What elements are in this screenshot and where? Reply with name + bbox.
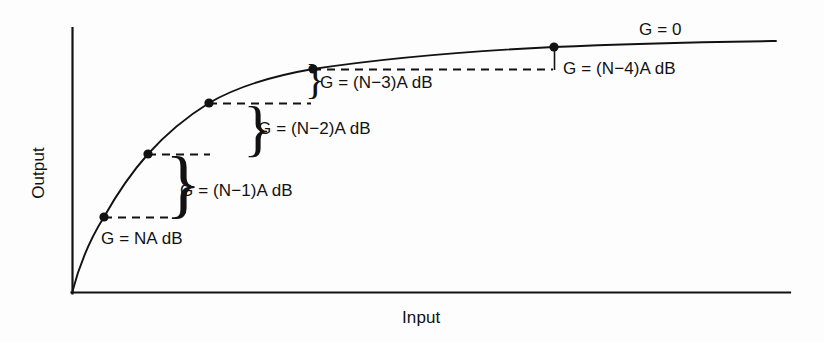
gain-curve-diagram [0, 0, 824, 342]
annotation-n2: G = (N−2)A dB [258, 119, 371, 139]
annotation-na: G = NA dB [101, 229, 183, 249]
x-axis-label: Input [402, 308, 440, 328]
breakpoint-marker-1 [99, 212, 108, 221]
breakpoint-marker-2 [143, 149, 152, 158]
breakpoint-marker-3 [204, 98, 213, 107]
breakpoint-marker-5 [549, 42, 558, 51]
annotation-g0: G = 0 [639, 20, 682, 40]
annotation-n1: G = (N−1)A dB [180, 181, 293, 201]
annotation-n3: G = (N−3)A dB [320, 73, 433, 93]
y-axis-label: Output [29, 142, 49, 204]
annotation-n4: G = (N−4)A dB [563, 59, 676, 79]
figure-container: } } } G = 0 G = NA dB G = (N−1)A dB G = … [0, 0, 824, 342]
